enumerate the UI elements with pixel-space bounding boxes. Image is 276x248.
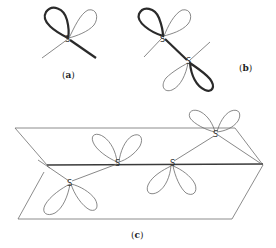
thin-bond-lower [190,42,210,60]
upper-plane [15,128,263,165]
thick-bond [70,40,96,58]
bond-s4-vertex [218,135,263,165]
atom-s1: S [67,179,72,188]
bond-s1-axis [47,166,69,181]
panel-label-a: (a) [62,70,75,80]
atom-s-upper: S [160,35,165,44]
bond-s3-s4 [174,136,214,161]
thick-lobe-lower [190,63,213,91]
sulfur-orbital-diagram: S (a) S S (b) S S S [0,0,276,248]
panel-a: S (a) [42,8,97,80]
thick-lobe-upper [139,9,163,36]
atom-s4: S [213,130,218,139]
lobe-s4-right [217,110,240,132]
thin-lobe-lower [163,63,188,91]
lobe-s1-right [71,184,97,210]
lobe-s2-right [119,135,142,162]
intersection-axis [47,164,263,165]
panel-b: S S (b) [139,9,253,91]
atom-s: S [65,35,70,44]
lobe-s2-left [92,134,117,162]
thick-bond-ss [165,39,187,60]
atom-s2: S [115,159,120,168]
lobe-s1-left [44,184,70,215]
atom-s3: S [170,159,175,168]
lobe-s3-left [147,166,171,194]
panel-label-b: (b) [239,63,252,73]
lobe-s4-left [189,110,215,132]
lobe-s3-right [173,166,196,194]
bond-s1-s2 [72,164,117,181]
thin-lobe [69,10,97,38]
thin-lobe-upper [164,10,191,36]
panel-c: S S S S (c) [15,110,263,240]
panel-label-c: (c) [131,230,144,240]
thick-lobe [45,8,69,38]
lower-plane [18,165,263,219]
atom-s-lower: S [186,57,191,66]
